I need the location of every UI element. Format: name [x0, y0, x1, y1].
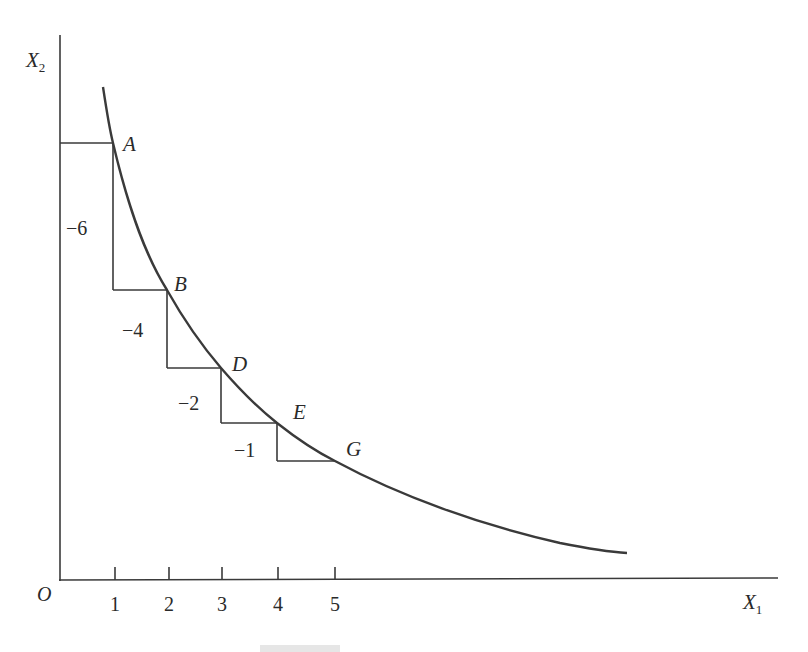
point-d-label: D — [231, 352, 247, 376]
point-b-label: B — [174, 272, 187, 296]
x-ticks — [115, 567, 335, 580]
x-axis — [59, 578, 778, 580]
origin-label: O — [37, 583, 51, 605]
step-label-e-g: −1 — [234, 439, 255, 461]
scan-artifact — [260, 645, 340, 652]
step-label-d-e: −2 — [178, 392, 199, 414]
step-change-labels: −6 −4 −2 −1 — [66, 217, 255, 461]
indifference-curve-diagram: X2 X1 O 1 2 3 4 5 A B D E G −6 −4 −2 −1 — [0, 0, 808, 652]
x-axis-label: X1 — [742, 590, 762, 617]
point-labels: A B D E G — [121, 132, 361, 461]
point-g-label: G — [346, 437, 361, 461]
svg-text:5: 5 — [330, 593, 340, 615]
svg-text:4: 4 — [273, 593, 283, 615]
svg-text:3: 3 — [217, 593, 227, 615]
point-a-label: A — [121, 132, 136, 156]
step-label-a-b: −6 — [66, 217, 87, 239]
y-axis-label: X2 — [25, 48, 45, 75]
svg-text:2: 2 — [164, 593, 174, 615]
point-e-label: E — [292, 400, 306, 424]
step-label-b-d: −4 — [122, 319, 143, 341]
x-tick-labels: 1 2 3 4 5 — [110, 593, 340, 615]
svg-text:1: 1 — [110, 593, 120, 615]
indifference-curve — [103, 87, 627, 553]
